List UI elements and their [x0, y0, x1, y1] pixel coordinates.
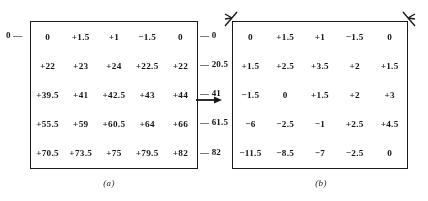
matrix-cell: +66 [164, 110, 197, 139]
matrix-cell: +44 [164, 80, 197, 109]
matrix-cell: +1.5 [64, 22, 97, 51]
matrix-cell: −1.5 [337, 22, 372, 51]
panel-b-caption: (b) [218, 178, 424, 188]
figure-root: 0 — 0 +1.5 +1 −1.5 0 +22 +23 +24 [0, 0, 428, 201]
matrix-cell: +1 [303, 22, 338, 51]
tick-dash: — [200, 30, 212, 40]
matrix-row: 0 +1.5 +1 −1.5 0 [31, 22, 197, 51]
matrix-cell: 0 [233, 22, 268, 51]
matrix-cell: +2.5 [268, 51, 303, 80]
matrix-cell: −1.5 [233, 80, 268, 109]
matrix-row: +1.5 +2.5 +3.5 +2 +1.5 [233, 51, 407, 80]
matrix-cell: +60.5 [97, 110, 130, 139]
matrix-cell: +64 [131, 110, 164, 139]
matrix-cell: +1.5 [303, 80, 338, 109]
tick-dash: — [200, 59, 212, 69]
matrix-cell: +3 [372, 80, 407, 109]
matrix-cell: +24 [97, 51, 130, 80]
matrix-cell: +75 [97, 139, 130, 168]
tick-dash: — [200, 147, 212, 157]
scale-value: 0 [212, 30, 217, 40]
panel-b-matrix-box: 0 +1.5 +1 −1.5 0 +1.5 +2.5 +3.5 +2 +1.5 [232, 21, 408, 169]
matrix-cell: 0 [268, 80, 303, 109]
panel-a-caption: (a) [6, 178, 212, 188]
matrix-cell: 0 [164, 22, 197, 51]
matrix-cell: −2.5 [337, 139, 372, 168]
matrix-row: −11.5 −8.5 −7 −2.5 0 [233, 139, 407, 168]
matrix-cell: −1.5 [131, 22, 164, 51]
matrix-row: +55.5 +59 +60.5 +64 +66 [31, 110, 197, 139]
matrix-cell: +1.5 [233, 51, 268, 80]
matrix-cell: +41 [64, 80, 97, 109]
matrix-cell: +42.5 [97, 80, 130, 109]
matrix-cell: +23 [64, 51, 97, 80]
matrix-cell: 0 [372, 22, 407, 51]
panel-a-matrix-box: 0 +1.5 +1 −1.5 0 +22 +23 +24 +22.5 +22 [30, 21, 198, 169]
matrix-cell: −11.5 [233, 139, 268, 168]
matrix-cell: −8.5 [268, 139, 303, 168]
panel-a-right-scale-label-0: — 0 [200, 30, 216, 40]
matrix-cell: +79.5 [131, 139, 164, 168]
matrix-cell: +2.5 [337, 110, 372, 139]
matrix-row: −1.5 0 +1.5 +2 +3 [233, 80, 407, 109]
matrix-cell: 0 [372, 139, 407, 168]
matrix-row: +39.5 +41 +42.5 +43 +44 [31, 80, 197, 109]
panel-b: 0 +1.5 +1 −1.5 0 +1.5 +2.5 +3.5 +2 +1.5 [218, 4, 424, 201]
matrix-cell: +70.5 [31, 139, 64, 168]
matrix-cell: +73.5 [64, 139, 97, 168]
matrix-cell: +4.5 [372, 110, 407, 139]
matrix-cell: +82 [164, 139, 197, 168]
matrix-cell: +2 [337, 51, 372, 80]
matrix-cell: +22.5 [131, 51, 164, 80]
matrix-cell: −7 [303, 139, 338, 168]
matrix-cell: 0 [31, 22, 64, 51]
matrix-row: +22 +23 +24 +22.5 +22 [31, 51, 197, 80]
tick-dash: — [200, 117, 212, 127]
panel-a-matrix-table: 0 +1.5 +1 −1.5 0 +22 +23 +24 +22.5 +22 [31, 22, 197, 168]
panel-b-matrix-table: 0 +1.5 +1 −1.5 0 +1.5 +2.5 +3.5 +2 +1.5 [233, 22, 407, 168]
panel-a: 0 — 0 +1.5 +1 −1.5 0 +22 +23 +24 [6, 4, 212, 201]
matrix-row: 0 +1.5 +1 −1.5 0 [233, 22, 407, 51]
matrix-row: −6 −2.5 −1 +2.5 +4.5 [233, 110, 407, 139]
matrix-cell: −2.5 [268, 110, 303, 139]
matrix-cell: +39.5 [31, 80, 64, 109]
matrix-cell: +43 [131, 80, 164, 109]
matrix-cell: +59 [64, 110, 97, 139]
matrix-cell: +1 [97, 22, 130, 51]
matrix-row: +70.5 +73.5 +75 +79.5 +82 [31, 139, 197, 168]
matrix-cell: +22 [164, 51, 197, 80]
tick-dash: — [11, 30, 23, 40]
matrix-cell: +1.5 [372, 51, 407, 80]
matrix-cell: +3.5 [303, 51, 338, 80]
matrix-cell: −1 [303, 110, 338, 139]
matrix-cell: +55.5 [31, 110, 64, 139]
matrix-cell: +2 [337, 80, 372, 109]
matrix-cell: −6 [233, 110, 268, 139]
matrix-cell: +22 [31, 51, 64, 80]
panel-a-left-scale-label-0: 0 — [6, 30, 22, 40]
matrix-cell: +1.5 [268, 22, 303, 51]
